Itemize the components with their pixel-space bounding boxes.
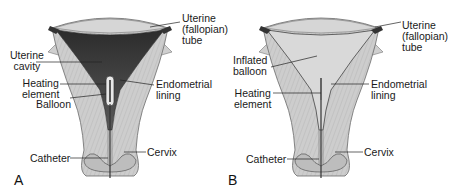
label-heating-element-a: Heating element bbox=[22, 78, 59, 100]
label-uterine-cavity: Uterine cavity bbox=[10, 50, 44, 72]
label-fallopian-tube-a: Uterine (fallopian) tube bbox=[182, 13, 228, 46]
label-heating-element-b: Heating element bbox=[234, 88, 271, 110]
label-catheter-b: Catheter bbox=[246, 154, 286, 165]
label-cervix-b: Cervix bbox=[364, 147, 394, 158]
panel-b: Uterine (fallopian) tube Inflated balloo… bbox=[225, 0, 451, 194]
label-catheter-a: Catheter bbox=[30, 153, 70, 164]
panel-a: Uterine (fallopian) tube Uterine cavity … bbox=[0, 0, 225, 194]
panel-letter-b: B bbox=[228, 172, 237, 188]
label-fallopian-tube-b: Uterine (fallopian) tube bbox=[402, 20, 448, 53]
label-cervix-a: Cervix bbox=[147, 147, 177, 158]
label-inflated-balloon: Inflated balloon bbox=[233, 55, 267, 77]
panel-letter-a: A bbox=[14, 172, 23, 188]
label-balloon: Balloon bbox=[36, 99, 71, 110]
label-endometrial-lining-a: Endometrial lining bbox=[156, 79, 212, 101]
label-endometrial-lining-b: Endometrial lining bbox=[371, 79, 427, 101]
